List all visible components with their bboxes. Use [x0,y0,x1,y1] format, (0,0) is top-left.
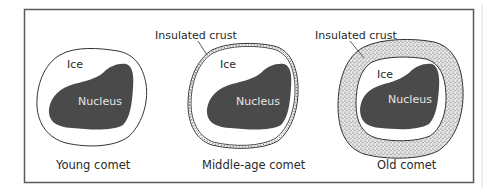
ice-label: Ice [220,58,236,71]
caption-old-comet: Old comet [377,158,437,172]
crust-pointer-line [198,41,207,55]
ice-label: Ice [67,58,83,71]
caption-middle-age-comet: Middle-age comet [202,158,306,172]
nucleus-label: Nucleus [388,93,432,106]
crust-label: Insulated crust [155,29,238,42]
panel-old-comet: Insulated crust Ice Nucleus Old comet [315,29,463,172]
panel-middle-age-comet: Insulated crust Ice Nucleus Middle-age c… [155,29,306,172]
comet-aging-diagram: Ice Nucleus Young comet Insulated crust … [0,0,489,192]
crust-label: Insulated crust [315,29,398,42]
caption-young-comet: Young comet [55,158,131,172]
nucleus-label: Nucleus [78,95,122,108]
ice-label: Ice [377,68,393,81]
panel-young-comet: Ice Nucleus Young comet [37,48,147,172]
nucleus-label: Nucleus [236,95,280,108]
